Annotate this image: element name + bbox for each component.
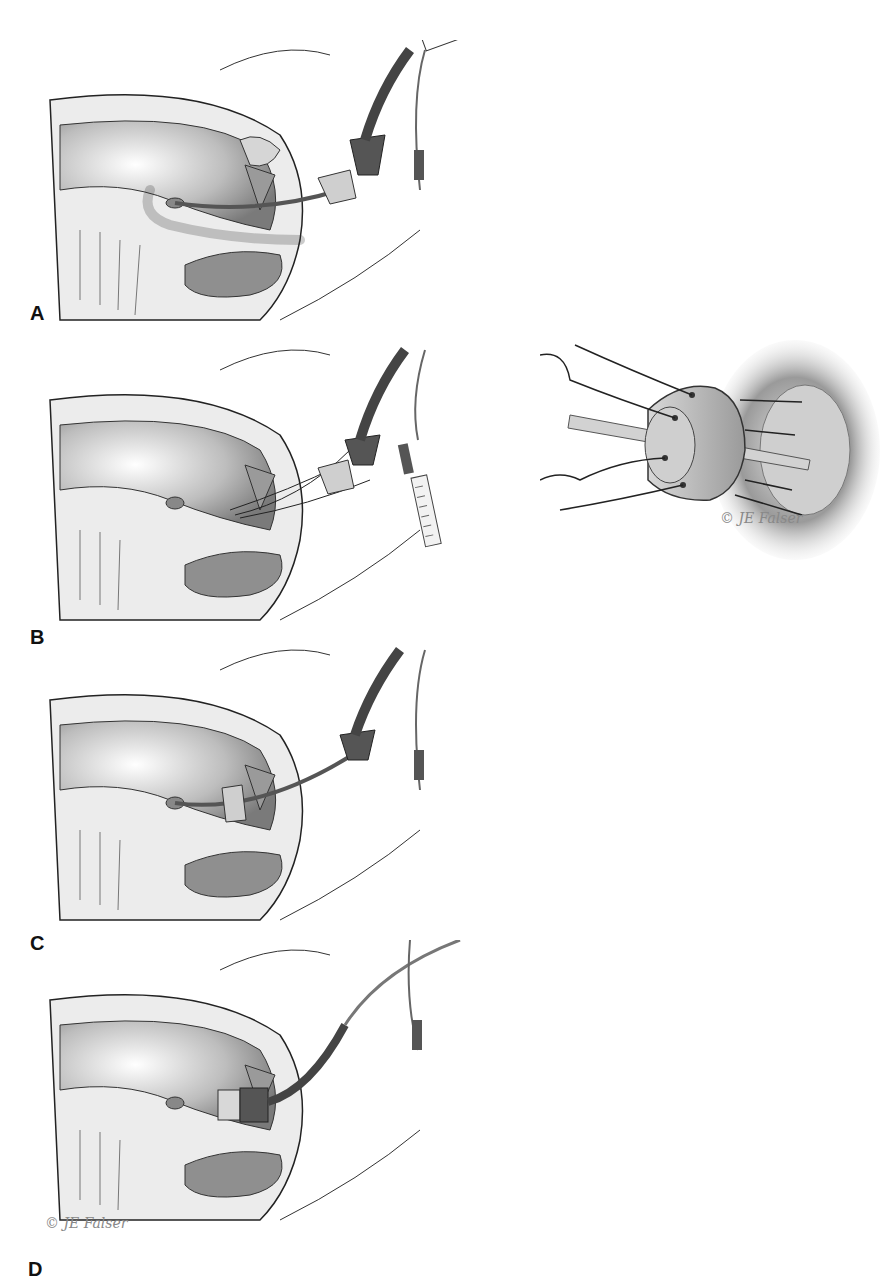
- artist-signature: © JE Falser: [720, 510, 802, 526]
- cervical-cup-icon: [222, 785, 246, 822]
- panel-b: B: [0, 340, 560, 640]
- artist-signature: © JE Falser: [45, 1215, 127, 1231]
- cervical-cup-closeup: © JE Falser: [540, 340, 880, 570]
- panel-label: D: [28, 1258, 42, 1281]
- panel-label: A: [30, 302, 44, 325]
- pelvic-anatomy-illustration: [0, 40, 560, 340]
- pelvic-anatomy-illustration: [0, 640, 560, 940]
- panel-d: © JE Falser D: [0, 940, 560, 1284]
- panel-a: A: [0, 40, 560, 340]
- pelvic-anatomy-illustration: [0, 940, 560, 1240]
- syringe-icon: [398, 441, 441, 548]
- pelvic-anatomy-illustration: [0, 340, 560, 640]
- cervical-cup-icon: [318, 460, 354, 494]
- closeup-illustration: [540, 340, 880, 570]
- cervical-cup-icon: [318, 170, 356, 204]
- panel-c: C: [0, 640, 560, 940]
- cone-connector-icon: [350, 135, 385, 175]
- cervical-cup-icon: [218, 1090, 240, 1120]
